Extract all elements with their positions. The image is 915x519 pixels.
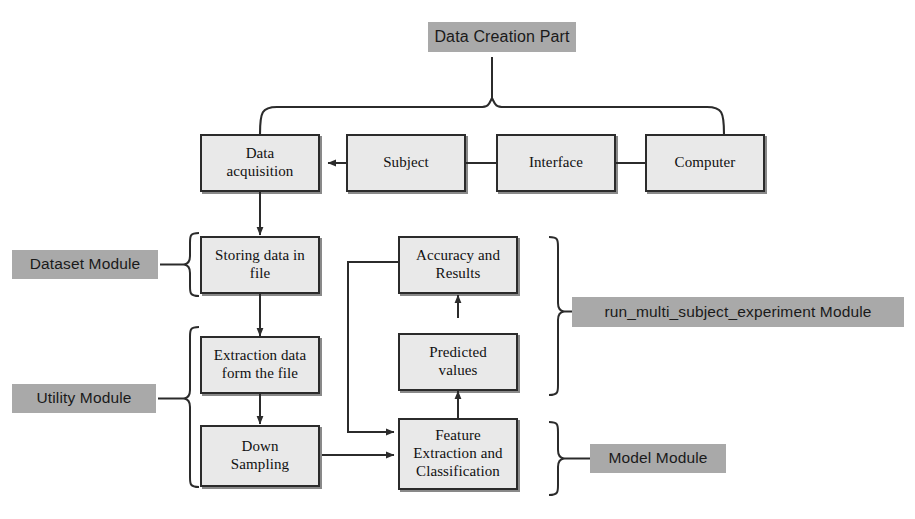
node-data-acquisition-line2: acquisition: [206, 163, 314, 181]
node-predicted-values: Predicted values: [398, 333, 518, 391]
node-extraction-data-label: Extraction data form the file: [206, 347, 314, 382]
title-data-creation-part: Data Creation Part: [428, 22, 576, 52]
brace-model: [549, 422, 564, 495]
brace-dataset: [184, 233, 199, 296]
node-feature-extraction-label: Feature Extraction and Classification: [404, 427, 512, 480]
node-data-acquisition: Data acquisition: [200, 134, 320, 192]
node-accuracy-results-line1: Accuracy and: [404, 247, 512, 265]
node-feature-line2: Extraction and: [404, 445, 512, 463]
module-label-dataset-text: Dataset Module: [30, 255, 141, 273]
node-down-sampling-line2: Sampling: [206, 456, 314, 474]
node-accuracy-results-label: Accuracy and Results: [404, 247, 512, 282]
node-down-sampling-label: Down Sampling: [206, 438, 314, 473]
module-label-utility-text: Utility Module: [36, 389, 131, 407]
node-down-sampling: Down Sampling: [200, 425, 320, 487]
node-computer-label: Computer: [651, 154, 759, 172]
top-brace: [260, 98, 724, 134]
node-storing-data-line2: file: [206, 265, 314, 283]
node-computer: Computer: [645, 134, 765, 192]
title-text: Data Creation Part: [434, 28, 569, 46]
module-label-model: Model Module: [590, 444, 726, 473]
brace-utility: [184, 327, 199, 487]
node-down-sampling-line1: Down: [206, 438, 314, 456]
node-data-acquisition-line1: Data: [206, 145, 314, 163]
node-extraction-data-line2: form the file: [206, 365, 314, 383]
module-label-model-text: Model Module: [608, 449, 707, 467]
node-extraction-data: Extraction data form the file: [200, 336, 320, 394]
node-extraction-data-line1: Extraction data: [206, 347, 314, 365]
node-data-acquisition-label: Data acquisition: [206, 145, 314, 180]
architecture-diagram: Data Creation Part Computer Interface Su…: [0, 0, 915, 519]
brace-run-multi: [549, 237, 564, 395]
node-subject-label: Subject: [352, 154, 460, 172]
node-feature-line3: Classification: [404, 463, 512, 481]
node-storing-data-line1: Storing data in: [206, 247, 314, 265]
node-predicted-values-line1: Predicted: [404, 344, 512, 362]
node-predicted-values-label: Predicted values: [404, 344, 512, 379]
node-subject: Subject: [346, 134, 466, 192]
module-label-dataset: Dataset Module: [12, 250, 158, 279]
node-accuracy-results: Accuracy and Results: [398, 236, 518, 294]
node-interface: Interface: [496, 134, 616, 192]
node-feature-extraction-classification: Feature Extraction and Classification: [398, 418, 518, 490]
node-interface-label: Interface: [502, 154, 610, 172]
arrow-accuracy-feedback-feature: [348, 262, 398, 432]
module-label-run-multi-subject-experiment: run_multi_subject_experiment Module: [572, 297, 904, 327]
node-storing-data: Storing data in file: [200, 236, 320, 294]
node-accuracy-results-line2: Results: [404, 265, 512, 283]
node-storing-data-label: Storing data in file: [206, 247, 314, 282]
module-label-utility: Utility Module: [12, 384, 156, 413]
node-feature-line1: Feature: [404, 427, 512, 445]
node-predicted-values-line2: values: [404, 362, 512, 380]
module-label-run-multi-subject-experiment-text: run_multi_subject_experiment Module: [604, 303, 871, 321]
